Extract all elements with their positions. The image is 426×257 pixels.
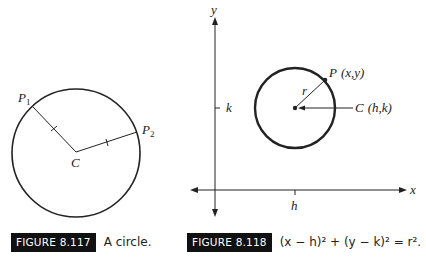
label-center-c: C — [71, 155, 80, 170]
point-p — [323, 78, 328, 83]
center-label: C(h,k) — [355, 100, 392, 115]
figures-canvas: P1 P2 C y x k h r P(x,y) C(h,k) — [0, 0, 426, 257]
point-p-label: P(x,y) — [328, 65, 364, 80]
figure-118-caption-equation: (x − h)² + (y − k)² = r². — [280, 235, 421, 249]
radius-r — [295, 81, 324, 108]
circle-117 — [12, 89, 140, 217]
x-axis-arrow-right-icon — [399, 187, 407, 193]
figure-118-diagram: y x k h r P(x,y) C(h,k) — [190, 2, 416, 217]
figure-117-badge: FIGURE 8.117 — [11, 233, 96, 252]
radius-cp1 — [33, 107, 76, 152]
x-axis-label: x — [409, 182, 416, 197]
k-tick-label: k — [226, 100, 232, 115]
figure-117-diagram: P1 P2 C — [12, 89, 154, 217]
radius-label: r — [302, 83, 308, 98]
y-axis-arrow-up-icon — [212, 17, 218, 25]
y-axis-label: y — [209, 2, 217, 17]
figure-118-badge: FIGURE 8.118 — [187, 233, 272, 252]
label-p1: P1 — [17, 90, 30, 107]
h-tick-label: h — [291, 198, 298, 213]
figure-117-caption: FIGURE 8.117 A circle. — [11, 232, 151, 252]
label-p2: P2 — [141, 122, 154, 139]
x-axis-arrow-left-icon — [190, 187, 198, 193]
center-pointer-arrow-icon — [298, 106, 305, 111]
figure-117-caption-text: A circle. — [104, 235, 152, 249]
figure-118-caption: FIGURE 8.118 (x − h)² + (y − k)² = r². — [187, 232, 421, 252]
y-axis-arrow-down-icon — [212, 209, 218, 217]
